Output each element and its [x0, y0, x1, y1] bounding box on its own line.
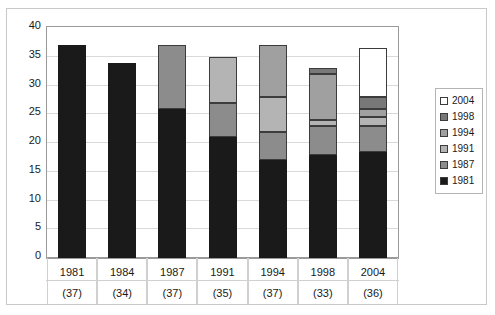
- bar-stack[interactable]: [58, 45, 86, 258]
- x-axis-category: 1984(34): [97, 258, 147, 304]
- legend-item-1994[interactable]: 1994: [440, 125, 479, 141]
- x-axis-year-label: 1991: [198, 266, 246, 278]
- bar-segment-1994[interactable]: [259, 45, 287, 97]
- legend-item-1998[interactable]: 1998: [440, 109, 479, 125]
- legend-label: 1991: [452, 144, 474, 154]
- x-axis-category: 1991(35): [197, 258, 247, 304]
- bar-segment-1998[interactable]: [359, 97, 387, 109]
- legend-label: 2004: [452, 96, 474, 106]
- x-axis-count-label: (36): [349, 287, 397, 299]
- y-axis: 4035302520151050: [7, 9, 41, 275]
- bar-group[interactable]: [259, 28, 287, 258]
- bars-layer: [46, 26, 399, 258]
- bar-stack[interactable]: [259, 45, 287, 258]
- x-axis-count-label: (37): [249, 287, 297, 299]
- x-axis-year-label: 1994: [249, 266, 297, 278]
- x-axis-count-label: (33): [299, 287, 347, 299]
- bar-segment-1981[interactable]: [58, 45, 86, 258]
- bar-stack[interactable]: [158, 45, 186, 258]
- bar-segment-1991[interactable]: [209, 57, 237, 103]
- legend-swatch-icon: [440, 129, 448, 137]
- legend-swatch-icon: [440, 177, 448, 185]
- x-axis-year-label: 1998: [299, 266, 347, 278]
- y-tick-label: 15: [7, 164, 41, 175]
- legend-swatch-icon: [440, 145, 448, 153]
- legend-label: 1987: [452, 160, 474, 170]
- bar-segment-1994[interactable]: [359, 109, 387, 118]
- x-axis-count-label: (37): [48, 287, 96, 299]
- legend-label: 1998: [452, 112, 474, 122]
- bar-segment-1981[interactable]: [158, 109, 186, 259]
- bar-segment-1981[interactable]: [108, 63, 136, 259]
- bar-segment-1987[interactable]: [259, 132, 287, 161]
- bar-segment-1991[interactable]: [259, 97, 287, 132]
- x-axis-year-label: 1984: [98, 266, 146, 278]
- y-tick-label: 5: [7, 221, 41, 232]
- bar-segment-1987[interactable]: [158, 45, 186, 108]
- bar-group[interactable]: [359, 28, 387, 258]
- bar-segment-1981[interactable]: [359, 152, 387, 258]
- y-tick-label: 30: [7, 78, 41, 89]
- x-axis-category: 1987(37): [147, 258, 197, 304]
- y-tick-label: 10: [7, 193, 41, 204]
- x-axis-year-label: 1987: [148, 266, 196, 278]
- bar-segment-1987[interactable]: [209, 103, 237, 138]
- x-axis-category: 1998(33): [298, 258, 348, 304]
- bar-segment-1998[interactable]: [309, 68, 337, 74]
- chart-frame: 4035302520151050 1981(37)1984(34)1987(37…: [6, 8, 487, 305]
- y-tick-label: 35: [7, 49, 41, 60]
- bar-segment-1981[interactable]: [309, 155, 337, 259]
- x-axis: 1981(37)1984(34)1987(37)1991(35)1994(37)…: [46, 258, 399, 304]
- bar-stack[interactable]: [359, 48, 387, 258]
- bar-group[interactable]: [108, 28, 136, 258]
- bar-segment-1991[interactable]: [309, 120, 337, 126]
- y-tick-label: 25: [7, 106, 41, 117]
- x-axis-count-label: (35): [198, 287, 246, 299]
- legend-item-1991[interactable]: 1991: [440, 141, 479, 157]
- x-axis-year-label: 1981: [48, 266, 96, 278]
- legend-label: 1994: [452, 128, 474, 138]
- x-axis-category: 2004(36): [348, 258, 398, 304]
- chart-legend: 200419981994199119871981: [435, 88, 483, 194]
- bar-segment-1987[interactable]: [309, 126, 337, 155]
- bar-segment-1987[interactable]: [359, 126, 387, 152]
- bar-group[interactable]: [158, 28, 186, 258]
- bar-stack[interactable]: [209, 57, 237, 258]
- legend-swatch-icon: [440, 97, 448, 105]
- bar-segment-1981[interactable]: [259, 160, 287, 258]
- x-axis-count-label: (37): [148, 287, 196, 299]
- legend-item-1987[interactable]: 1987: [440, 157, 479, 173]
- x-axis-year-label: 2004: [349, 266, 397, 278]
- bar-segment-1994[interactable]: [309, 74, 337, 120]
- legend-label: 1981: [452, 176, 474, 186]
- bar-group[interactable]: [209, 28, 237, 258]
- legend-item-2004[interactable]: 2004: [440, 93, 479, 109]
- y-tick-label: 20: [7, 135, 41, 146]
- y-tick-label: 40: [7, 20, 41, 31]
- legend-swatch-icon: [440, 161, 448, 169]
- x-axis-count-label: (34): [98, 287, 146, 299]
- bar-segment-1981[interactable]: [209, 137, 237, 258]
- legend-swatch-icon: [440, 113, 448, 121]
- bar-group[interactable]: [309, 28, 337, 258]
- y-tick-label: 0: [7, 250, 41, 261]
- bar-stack[interactable]: [108, 63, 136, 259]
- x-axis-category: 1981(37): [47, 258, 97, 304]
- bar-segment-2004[interactable]: [359, 48, 387, 97]
- bar-segment-1991[interactable]: [359, 117, 387, 126]
- bar-stack[interactable]: [309, 68, 337, 258]
- legend-item-1981[interactable]: 1981: [440, 173, 479, 189]
- bar-group[interactable]: [58, 28, 86, 258]
- x-axis-category: 1994(37): [248, 258, 298, 304]
